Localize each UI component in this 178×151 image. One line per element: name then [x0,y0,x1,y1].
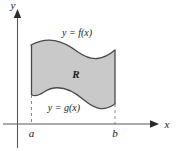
area-between-curves-figure: y x a b y = f(x) y = g(x) R [0,0,178,151]
region-label: R [71,68,79,80]
upper-curve-label: y = f(x) [61,27,93,39]
y-axis-label: y [10,0,16,11]
x-axis-label: x [164,118,170,130]
x-axis-arrow-icon [150,120,159,127]
tick-label-b: b [112,127,118,139]
tick-label-a: a [29,127,35,139]
lower-curve-label: y = g(x) [47,102,81,114]
